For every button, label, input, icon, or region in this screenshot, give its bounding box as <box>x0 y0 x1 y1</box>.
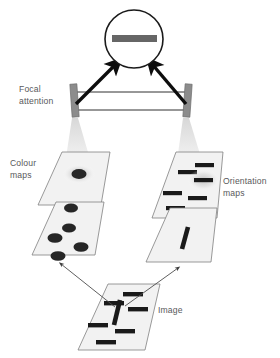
image-plane-bar-3 <box>88 323 108 327</box>
colour-map-lower-blob-1 <box>62 223 76 232</box>
colour-map-upper-blob-0 <box>72 169 87 179</box>
image-plane <box>78 284 160 350</box>
image-plane-bar-2 <box>128 307 148 311</box>
image-label: Image <box>158 305 183 315</box>
colour-maps-label-line1: Colour <box>10 158 36 168</box>
feature-map-planes <box>32 152 223 350</box>
orientation-maps-label-line1: Orientation <box>223 176 267 186</box>
image-plane-bar-5 <box>96 340 116 344</box>
image-plane-bar-4 <box>115 329 135 333</box>
orientation-map-upper-bar-4 <box>188 196 207 200</box>
orientation-map-upper-bar-3 <box>163 191 182 195</box>
right-attention-arrow <box>152 64 186 104</box>
focal-attention-label-line1: Focal <box>19 84 41 94</box>
diagram-canvas: Focal attention Colour maps Orientation … <box>0 0 280 358</box>
colour-map-upper <box>38 152 110 205</box>
colour-map-lower-blob-3 <box>74 242 89 252</box>
orientation-maps-label-line2: maps <box>223 188 245 198</box>
colour-map-lower <box>32 202 104 261</box>
colour-maps-label-line2: maps <box>10 170 32 180</box>
focal-attention-diagram: Focal attention Colour maps Orientation … <box>0 0 280 358</box>
orientation-map-upper-bar-2 <box>194 178 213 182</box>
colour-map-lower-blob-4 <box>51 251 66 261</box>
focal-attention-mechanism <box>70 64 192 117</box>
left-attention-arrow <box>76 64 116 104</box>
colour-map-lower-blob-0 <box>64 203 78 212</box>
percept-circle-group <box>105 10 163 68</box>
orientation-map-upper-bar-0 <box>195 163 214 167</box>
focal-attention-label-line2: attention <box>19 96 53 106</box>
percept-bar <box>112 35 157 42</box>
colour-map-lower-blob-2 <box>48 233 63 243</box>
image-plane-surface <box>78 284 160 350</box>
